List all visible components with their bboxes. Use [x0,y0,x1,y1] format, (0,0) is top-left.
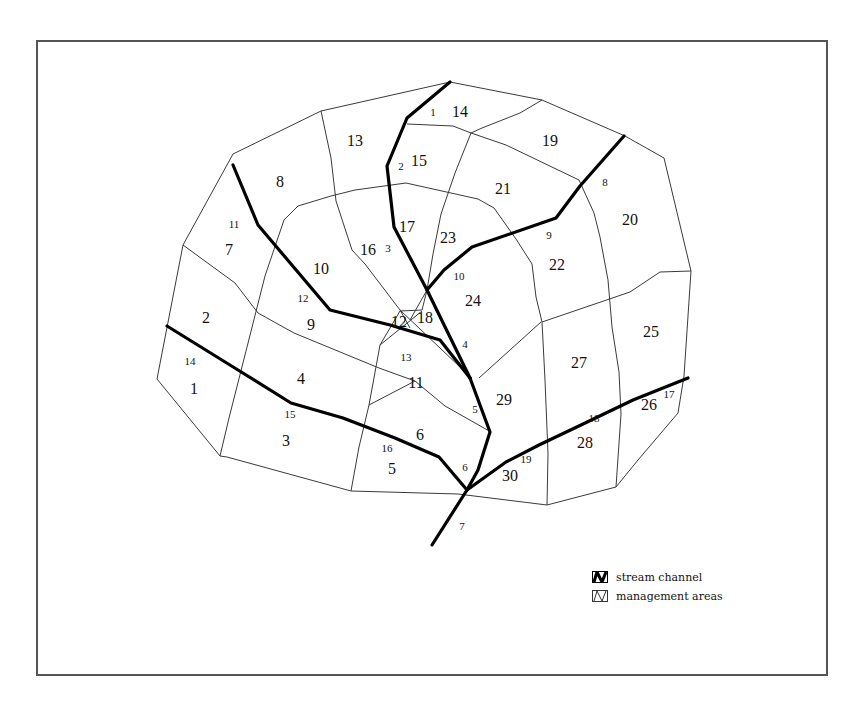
area-boundary-line [351,133,471,491]
management-area-label: 8 [276,173,284,190]
legend-label-stream-channel: stream channel [616,571,702,584]
management-area-label: 5 [388,460,396,477]
management-area-label: 23 [440,229,456,246]
stream-segment-label: 8 [602,176,608,188]
stream-segment-label: 16 [382,442,394,454]
area-boundary-line [471,100,542,133]
management-area-label: 25 [643,323,659,340]
stream-segment-label: 9 [546,229,552,241]
management-area-label: 18 [417,309,433,326]
stream-channel-swatch-icon [592,571,608,583]
stream-segment-label: 18 [589,412,601,424]
management-area-label: 20 [622,211,638,228]
management-area-label: 10 [313,260,329,277]
stream-segment-label: 2 [398,160,404,172]
stream-segment-label: 3 [385,242,391,254]
management-area-label: 29 [496,391,512,408]
management-area-label: 6 [416,426,424,443]
stream-channel-line [432,490,467,545]
management-area-label: 27 [571,354,587,371]
management-area-label: 1 [190,380,198,397]
stream-segment-label: 7 [459,520,465,532]
management-area-label: 13 [347,132,363,149]
management-area-label: 3 [282,432,290,449]
legend-item-management-areas: management areas [592,587,723,605]
management-area-label: 26 [641,396,657,413]
area-boundary-line [660,271,691,272]
stream-channel-line [467,378,490,490]
stream-segment-label: 4 [462,338,468,350]
management-area-label: 7 [225,241,233,258]
management-area-label: 15 [411,152,427,169]
management-area-label: 2 [202,309,210,326]
stream-segment-label: 15 [285,408,297,420]
stream-segment-label: 17 [664,388,676,400]
stream-segment-label: 10 [454,270,466,282]
management-area-label: 9 [307,316,315,333]
stream-segment-label: 5 [472,403,478,415]
legend-label-management-areas: management areas [616,590,723,603]
management-area-label: 21 [495,180,511,197]
management-area-label: 17 [399,218,415,235]
legend-item-stream-channel: stream channel [592,568,723,586]
stream-segment-label: 19 [521,453,533,465]
management-area-label: 24 [465,292,481,309]
stream-segment-label: 14 [185,355,197,367]
management-area-label: 19 [542,132,558,149]
stream-segment-label: 12 [298,292,309,304]
area-boundary-line [542,272,660,322]
management-area-label: 12 [391,313,407,330]
watershed-outline [157,82,691,505]
stream-segment-label: 11 [229,218,240,230]
stream-segment-label: 13 [401,351,413,363]
management-areas-swatch-icon [592,590,608,602]
stream-segment-label: 6 [462,461,468,473]
stream-channel-line [233,165,470,378]
stream-segment-label: 1 [430,106,436,118]
management-area-label: 22 [549,256,565,273]
watershed-boundary [157,82,691,505]
area-boundary-line [298,183,494,208]
legend: stream channel management areas [592,568,723,606]
watershed-map: 1234567891011121314151617181920212223242… [0,0,863,709]
management-area-label: 16 [360,241,376,258]
management-area-label: 28 [577,434,593,451]
management-area-label: 11 [408,374,423,391]
stream-channel-line [167,326,467,490]
management-area-label: 30 [502,467,518,484]
area-boundary-line [183,245,415,381]
area-boundary-line [479,322,541,378]
management-area-boundaries [183,100,691,505]
management-area-label: 14 [452,103,468,120]
management-area-label: 4 [297,370,305,387]
